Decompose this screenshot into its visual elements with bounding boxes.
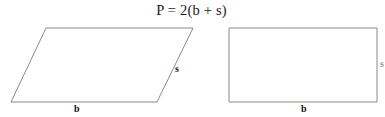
parallelogram-base-label: b	[74, 103, 80, 114]
parallelogram-shape	[11, 28, 193, 102]
rectangle-base-label: b	[301, 103, 307, 114]
figure-canvas: P = 2(b + s) b s b s	[0, 0, 385, 117]
rectangle-side-label: s	[380, 58, 384, 69]
parallelogram-side-label: s	[175, 63, 179, 74]
rectangle-shape	[229, 28, 377, 102]
shapes-svg	[0, 0, 385, 117]
